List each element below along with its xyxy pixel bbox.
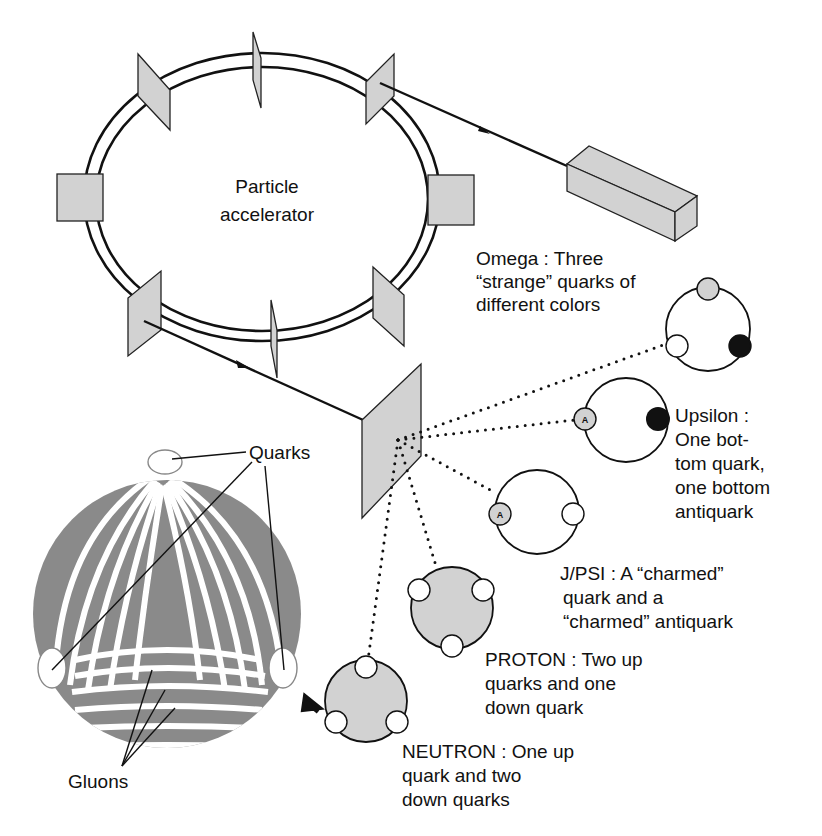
gluon-sphere bbox=[33, 450, 301, 748]
magnet-top bbox=[253, 32, 261, 108]
quark-white bbox=[386, 711, 408, 733]
magnet-bottom-right bbox=[373, 267, 404, 346]
neutron-label-2: quark and two bbox=[402, 765, 521, 786]
magnet-bottom bbox=[271, 300, 277, 378]
quarks-label: Quarks bbox=[249, 442, 310, 463]
upsilon-label-3: tom quark, bbox=[675, 453, 765, 474]
neutron-particle bbox=[325, 656, 408, 742]
accelerator-label-1: Particle bbox=[235, 176, 298, 197]
quark-diagram: Particle accelerator Omega : Three “stra… bbox=[0, 0, 822, 836]
quark-white bbox=[472, 579, 494, 601]
jpsi-particle: A bbox=[489, 470, 584, 554]
omega-label-3: different colors bbox=[476, 294, 600, 315]
proton-particle bbox=[408, 567, 494, 657]
upsilon-label-2: One bot- bbox=[675, 429, 749, 450]
proton-label-1: PROTON : Two up bbox=[485, 649, 643, 670]
magnet-top-left bbox=[138, 54, 170, 130]
quark-white bbox=[441, 635, 463, 657]
antiquark-mark: A bbox=[497, 510, 504, 520]
upsilon-label-1: Upsilon : bbox=[675, 405, 749, 426]
extraction-beam bbox=[144, 321, 372, 424]
quark-white bbox=[325, 711, 347, 733]
magnet-left bbox=[57, 174, 103, 221]
neutron-label-1: NEUTRON : One up bbox=[402, 741, 574, 762]
upsilon-particle: A bbox=[574, 378, 670, 462]
quark-white bbox=[408, 579, 430, 601]
gluons-label: Gluons bbox=[68, 771, 128, 792]
quark-white bbox=[666, 335, 688, 357]
quark-black bbox=[729, 335, 751, 357]
omega-label-1: Omega : Three bbox=[476, 248, 603, 269]
proton-label-2: quarks and one bbox=[485, 673, 616, 694]
proton-label-3: down quark bbox=[485, 697, 584, 718]
diagram-canvas: Particle accelerator Omega : Three “stra… bbox=[0, 0, 822, 836]
quark-white bbox=[562, 503, 584, 525]
jpsi-label-2: quark and a bbox=[563, 587, 664, 608]
jpsi-label-1: J/PSI : A “charmed” bbox=[560, 563, 724, 584]
upsilon-label-5: antiquark bbox=[675, 501, 754, 522]
upsilon-label-4: one bottom bbox=[675, 477, 770, 498]
quark-gray bbox=[697, 278, 719, 300]
magnet-right bbox=[428, 175, 474, 225]
quark-black bbox=[646, 407, 670, 431]
quark-white bbox=[355, 656, 377, 678]
neutron-label-3: down quarks bbox=[402, 789, 510, 810]
pointer-arrow-icon bbox=[303, 696, 320, 712]
antiquark-mark: A bbox=[582, 415, 589, 425]
omega-label-2: “strange” quarks of bbox=[476, 271, 636, 292]
jpsi-label-3: “charmed” antiquark bbox=[563, 611, 734, 632]
omega-particle bbox=[666, 278, 751, 371]
quark-left bbox=[38, 648, 66, 688]
quark-top bbox=[148, 450, 182, 474]
accelerator-label-2: accelerator bbox=[220, 204, 315, 225]
